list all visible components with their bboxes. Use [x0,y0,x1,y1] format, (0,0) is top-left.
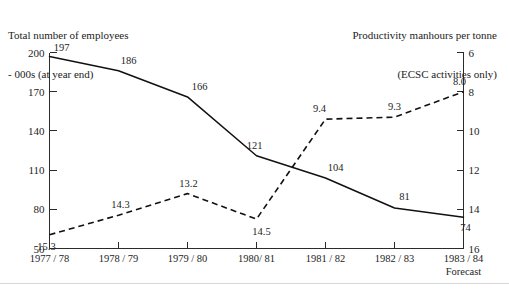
right-axis-tick-label: 12 [469,164,480,176]
forecast-note: Forecast [446,266,482,277]
employees-point-label: 166 [192,81,208,92]
x-axis-tick-label: 1977 / 78 [30,253,70,264]
right-axis-tick-label: 6 [469,47,475,59]
x-axis-tick-label: 1981 / 82 [306,253,346,264]
left-axis: 2001701401108050 [28,47,57,255]
left-axis-tick-label: 200 [28,47,45,59]
x-axis: 1977 / 781978 / 791979 / 801980/ 811981 … [30,242,484,264]
productivity-point-label: 14.3 [111,199,129,210]
productivity-point-label: 8.0 [453,76,466,87]
x-axis-tick-label: 1979 / 80 [168,253,208,264]
employees-point-label: 197 [54,42,70,53]
forecast-label: Forecast [446,266,482,277]
productivity-point-label: 9.3 [388,101,401,112]
employees-point-label: 81 [399,191,410,202]
left-axis-tick-label: 80 [34,203,46,215]
chart-plot-area: 2001701401108050 6810121416 1977 / 78197… [0,0,509,290]
employees-point-label: 121 [247,140,263,151]
x-axis-tick-label: 1980/ 81 [238,253,275,264]
left-axis-tick-label: 110 [28,164,45,176]
productivity-point-label: 9.4 [313,103,327,114]
left-axis-tick-label: 170 [28,86,45,98]
productivity-point-label: 15.3 [37,241,55,252]
productivity-point-label: 13.2 [179,178,197,189]
employees-point-label: 186 [121,55,137,66]
employees-point-label: 104 [328,162,345,173]
employees-point-label: 74 [460,222,471,233]
employment-productivity-chart: Total number of employees - 000s (at yea… [0,0,509,290]
x-axis-tick-label: 1978 / 79 [99,253,139,264]
left-axis-tick-label: 140 [28,125,45,137]
right-axis-tick-label: 8 [469,86,475,98]
bottom-divider [0,283,509,284]
x-axis-tick-label: 1982 / 83 [375,253,415,264]
x-axis-tick-label: 1983 / 84 [444,253,484,264]
right-axis-tick-label: 14 [469,203,481,215]
right-axis-tick-label: 10 [469,125,481,137]
series-productivity-line [50,92,464,235]
productivity-point-label: 14.5 [252,226,270,237]
